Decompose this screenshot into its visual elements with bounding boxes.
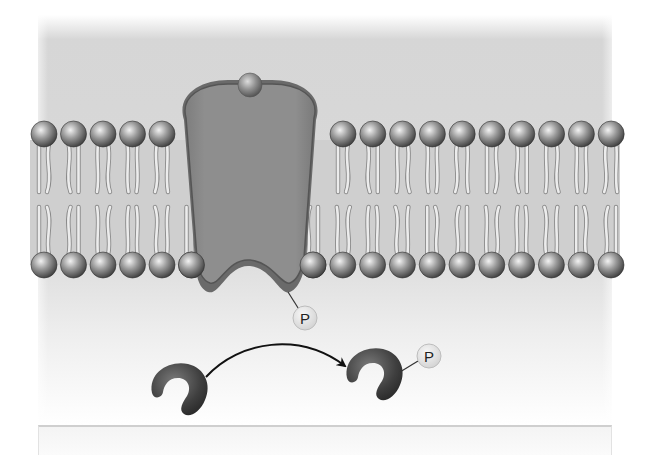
lipid-head xyxy=(300,252,326,278)
lipid-head xyxy=(330,121,356,147)
lipid-tail xyxy=(97,144,98,192)
lipid-head xyxy=(509,252,535,278)
lipid-tail xyxy=(397,144,398,192)
caption-box xyxy=(38,425,612,455)
lipid-head xyxy=(479,252,505,278)
bilayer-core xyxy=(30,140,620,265)
lipid-tail xyxy=(407,207,408,255)
lipid-tail xyxy=(436,144,437,192)
lipid-tail xyxy=(97,207,98,255)
lipid-head xyxy=(90,121,116,147)
lipid-tail xyxy=(367,207,368,255)
lipid-head xyxy=(419,252,445,278)
lipid-head xyxy=(419,121,445,147)
lipid-tail xyxy=(167,207,168,255)
lipid-tail xyxy=(137,144,138,192)
lipid-tail xyxy=(337,207,338,255)
lipid-head xyxy=(389,252,415,278)
lipid-head xyxy=(449,121,475,147)
phosphate-label: P xyxy=(300,310,310,327)
lipid-tail xyxy=(556,207,557,255)
phosphate-label: P xyxy=(424,348,434,365)
lipid-head xyxy=(538,252,564,278)
lipid-head xyxy=(539,121,565,147)
lipid-head xyxy=(149,252,175,278)
lipid-tail xyxy=(127,207,128,255)
lipid-tail xyxy=(167,144,168,192)
lipid-head xyxy=(61,252,87,278)
lipid-head xyxy=(568,252,594,278)
lipid-head xyxy=(120,121,146,147)
lipid-tail xyxy=(546,144,547,192)
ligand-molecule xyxy=(238,73,262,97)
lipid-tail xyxy=(467,144,468,192)
lipid-head xyxy=(90,252,116,278)
lipid-tail xyxy=(585,144,586,192)
lipid-head xyxy=(390,121,416,147)
lipid-head xyxy=(479,121,505,147)
lipid-head xyxy=(120,252,146,278)
lipid-head xyxy=(449,252,475,278)
lipid-tail xyxy=(576,144,577,192)
lipid-head xyxy=(31,121,57,147)
lipid-tail xyxy=(427,144,428,192)
lipid-head xyxy=(330,252,356,278)
lipid-tail xyxy=(526,207,527,255)
lipid-tail xyxy=(486,207,487,255)
lipid-tail xyxy=(377,207,378,255)
lipid-head xyxy=(61,121,87,147)
lipid-tail xyxy=(516,207,517,255)
lipid-tail xyxy=(616,144,617,192)
lipid-head xyxy=(568,121,594,147)
lipid-head xyxy=(598,252,624,278)
lipid-head xyxy=(509,121,535,147)
lipid-tail xyxy=(137,207,138,255)
lipid-head xyxy=(598,121,624,147)
lipid-head xyxy=(360,252,386,278)
lipid-tail xyxy=(127,144,128,192)
receptor-body xyxy=(185,84,315,283)
lipid-head xyxy=(31,252,57,278)
lipid-head xyxy=(360,121,386,147)
lipid-head xyxy=(149,121,175,147)
lipid-head xyxy=(179,252,205,278)
